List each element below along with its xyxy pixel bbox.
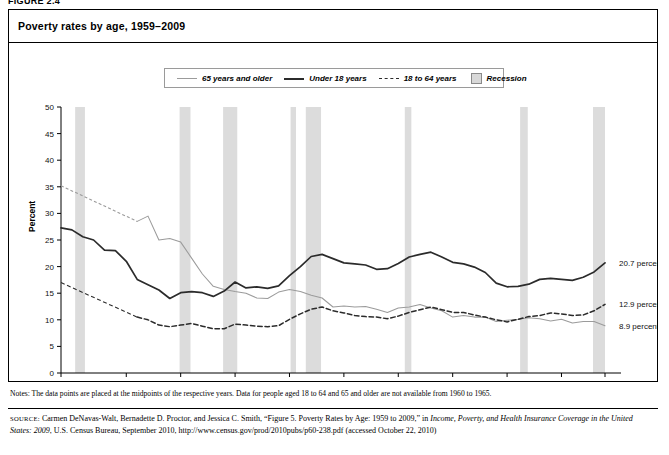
recession-band — [593, 107, 605, 373]
y-tick-label: 40 — [45, 156, 54, 165]
y-tick-label: 50 — [45, 103, 54, 112]
y-tick-label: 5 — [50, 342, 55, 351]
y-tick-label: 15 — [45, 289, 54, 298]
y-tick-label: 35 — [45, 183, 54, 192]
series-end-label: 8.9 percent — [619, 322, 657, 331]
recession-band — [223, 107, 237, 373]
source-divider — [8, 408, 658, 409]
source-text-2: , U.S. Census Bureau, September 2010, ht… — [50, 426, 437, 435]
recession-band — [306, 107, 321, 373]
series-gap-connector — [61, 283, 137, 318]
series-end-label: 20.7 percent — [619, 259, 657, 268]
source-prefix: SOURCE: — [10, 415, 40, 422]
figure-label: FIGURE 2.4 — [8, 0, 60, 6]
poverty-rates-line-chart: 0510152025303540455019591965197019751980… — [9, 10, 657, 381]
y-tick-label: 10 — [45, 316, 54, 325]
recession-band — [180, 107, 191, 373]
chart-notes: Notes: The data points are placed at the… — [10, 389, 660, 398]
chart-source: SOURCE: Carmen DeNavas-Walt, Bernadette … — [10, 413, 650, 436]
y-tick-label: 0 — [50, 369, 55, 378]
y-tick-label: 20 — [45, 263, 54, 272]
recession-band — [405, 107, 412, 373]
series-gap-connector — [61, 186, 137, 222]
y-tick-label: 45 — [45, 130, 54, 139]
series-line — [137, 216, 605, 326]
chart-plot-area: Percent 05101520253035404550195919651970… — [9, 10, 657, 381]
recession-band — [291, 107, 296, 373]
recession-band — [520, 107, 528, 373]
series-end-label: 12.9 percent — [619, 300, 657, 309]
y-tick-label: 25 — [45, 236, 54, 245]
y-tick-label: 30 — [45, 209, 54, 218]
recession-band — [75, 107, 85, 373]
source-text-1: Carmen DeNavas-Walt, Bernadette D. Proct… — [40, 414, 430, 423]
figure-panel: Poverty rates by age, 1959–2009 65 years… — [8, 9, 658, 382]
